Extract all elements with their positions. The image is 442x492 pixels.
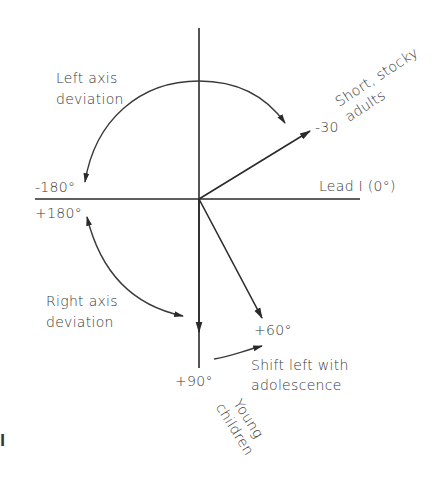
minus-30-label: -30 <box>315 119 339 135</box>
cardiac-axis-diagram: Left axis deviation -180° +180° Right ax… <box>0 0 442 492</box>
lead-i-label: Lead I (0°) <box>319 178 396 194</box>
left-axis-deviation-label-2: deviation <box>56 91 124 107</box>
shift-left-label-2: adolescence <box>251 377 342 393</box>
plus-60-label: +60° <box>254 322 292 338</box>
plus-60-vector-arrow <box>199 199 262 318</box>
minus-30-vector-arrow <box>199 131 310 199</box>
stray-mark: l <box>0 432 5 450</box>
right-axis-deviation-label-2: deviation <box>46 314 114 330</box>
plus-90-label: +90° <box>175 373 213 389</box>
shift-left-label-1: Shift left with <box>251 357 349 373</box>
right-axis-deviation-label-1: Right axis <box>46 293 118 309</box>
minus-180-label: -180° <box>35 179 75 195</box>
left-axis-deviation-label-1: Left axis <box>56 70 118 86</box>
plus-180-label: +180° <box>35 205 82 221</box>
